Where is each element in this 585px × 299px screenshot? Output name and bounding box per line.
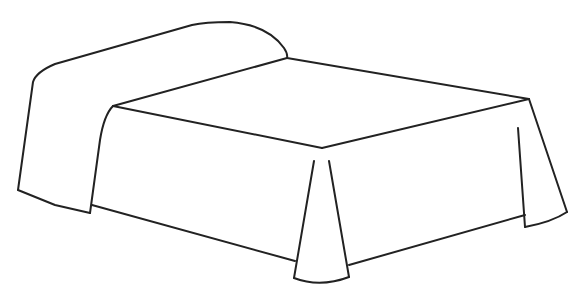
bedspread-left-side <box>90 106 295 261</box>
front-corner-fold <box>294 161 349 283</box>
headboard <box>18 22 287 213</box>
fold-left-line <box>294 161 314 278</box>
left-side-bottom-hem <box>92 205 295 261</box>
fold-hem <box>294 277 349 283</box>
front-side-bottom-hem <box>349 215 525 265</box>
top-left-edge <box>113 106 322 148</box>
bed-drawing <box>0 0 585 299</box>
right-fold-hem <box>525 212 567 227</box>
left-side-corner-edge <box>90 106 113 213</box>
right-corner-fold <box>518 99 567 227</box>
fold-right-line <box>329 161 349 277</box>
headboard-outline <box>18 22 287 190</box>
bedspread-front-side <box>349 215 525 265</box>
right-fold-outer-line <box>529 99 567 212</box>
top-back-edge <box>113 58 287 106</box>
top-right-edge <box>287 58 529 99</box>
mattress-top <box>113 58 529 148</box>
right-fold-inner-line <box>518 128 525 227</box>
headboard-bottom-edge <box>18 190 90 213</box>
top-front-edge <box>322 99 529 148</box>
